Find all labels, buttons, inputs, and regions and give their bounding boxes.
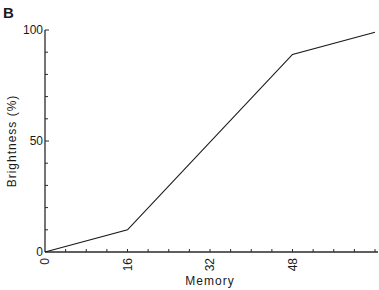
line-chart: 0163248050100 Memory Brightness (%) [0, 0, 379, 290]
x-tick-label: 48 [286, 258, 300, 272]
x-tick-label: 16 [121, 258, 135, 272]
x-axis-title: Memory [185, 274, 234, 288]
tick-labels: 0163248050100 [23, 23, 300, 271]
y-tick-label: 0 [36, 245, 43, 259]
series-line [45, 32, 375, 252]
y-tick-label: 50 [30, 134, 44, 148]
ticks [45, 30, 375, 252]
x-tick-label: 32 [203, 258, 217, 272]
data-series [45, 32, 375, 252]
y-axis-title: Brightness (%) [5, 95, 19, 188]
y-tick-label: 100 [23, 23, 43, 37]
